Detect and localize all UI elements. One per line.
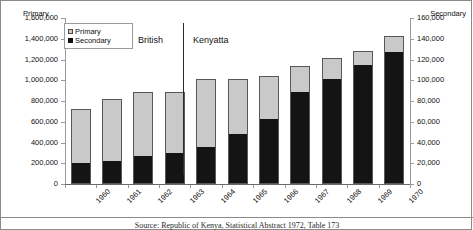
- x-axis-label-1963: 1963: [188, 187, 206, 205]
- legend-item-primary: Primary: [68, 28, 128, 36]
- right-axis-tick-label: 140,000: [417, 34, 444, 43]
- x-axis-label-1967: 1967: [313, 187, 331, 205]
- bar-1962: [133, 92, 153, 184]
- right-axis-tick-label: 20,000: [417, 158, 440, 167]
- x-axis-tick: [410, 185, 411, 188]
- left-axis-tick-label: 1,600,000: [6, 13, 58, 22]
- right-axis-tick: [410, 163, 414, 164]
- x-axis-label-1969: 1969: [376, 187, 394, 205]
- bar-secondary-segment: [134, 156, 152, 183]
- figure-caption: Source: Republic of Kenya, Statistical A…: [1, 221, 473, 230]
- x-axis-tick: [316, 185, 317, 188]
- x-axis-label-1965: 1965: [250, 187, 268, 205]
- x-axis-label-1966: 1966: [282, 187, 300, 205]
- left-axis-tick-label: 600,000: [6, 117, 58, 126]
- right-axis-tick-label: 80,000: [417, 96, 440, 105]
- right-axis-tick: [410, 80, 414, 81]
- bar-secondary-segment: [385, 52, 403, 183]
- bar-secondary-segment: [166, 153, 184, 183]
- legend-item-secondary: Secondary: [68, 37, 128, 45]
- bar-secondary-segment: [323, 79, 341, 183]
- bar-secondary-segment: [291, 92, 309, 183]
- x-axis-label-1964: 1964: [219, 187, 237, 205]
- bar-1963: [165, 92, 185, 184]
- right-axis-tick: [410, 101, 414, 102]
- x-axis-label-1960: 1960: [94, 187, 112, 205]
- right-axis-tick: [410, 60, 414, 61]
- right-axis-tick: [410, 39, 414, 40]
- bar-1970: [384, 36, 404, 184]
- bar-1964: [196, 79, 216, 184]
- bar-secondary-segment: [197, 147, 215, 183]
- left-axis-tick-label: 0: [6, 179, 58, 188]
- legend-label-primary: Primary: [75, 28, 101, 36]
- bar-1961: [102, 99, 122, 184]
- left-axis-tick-label: 200,000: [6, 158, 58, 167]
- x-axis-label-1961: 1961: [125, 187, 143, 205]
- bar-1969: [353, 51, 373, 184]
- x-axis-tick: [253, 185, 254, 188]
- bar-1966: [259, 76, 279, 184]
- x-axis-tick: [159, 185, 160, 188]
- x-axis-tick: [190, 185, 191, 188]
- x-axis-tick: [222, 185, 223, 188]
- bar-secondary-segment: [229, 134, 247, 183]
- bar-1967: [290, 66, 310, 184]
- bar-1965: [228, 79, 248, 184]
- x-axis-tick: [96, 185, 97, 188]
- bar-1960: [71, 109, 91, 184]
- x-axis-tick: [128, 185, 129, 188]
- right-axis-tick: [410, 122, 414, 123]
- bar-secondary-segment: [354, 65, 372, 183]
- bar-secondary-segment: [103, 161, 121, 183]
- era-label-kenyatta: Kenyatta: [193, 35, 229, 45]
- left-axis-tick-label: 1,000,000: [6, 75, 58, 84]
- era-divider-line: [183, 23, 184, 175]
- caption-divider: [1, 217, 473, 218]
- chart-legend: Primary Secondary: [64, 23, 133, 49]
- left-axis-tick-label: 800,000: [6, 96, 58, 105]
- era-label-british: British: [138, 35, 163, 45]
- right-axis-tick-label: 120,000: [417, 55, 444, 64]
- x-axis-label-1968: 1968: [344, 187, 362, 205]
- bar-secondary-segment: [260, 119, 278, 183]
- x-axis-tick: [379, 185, 380, 188]
- x-axis-tick: [65, 185, 66, 188]
- right-axis-tick-label: 160,000: [417, 13, 444, 22]
- bar-1968: [322, 58, 342, 184]
- right-axis-tick-label: 60,000: [417, 117, 440, 126]
- right-axis-tick: [410, 143, 414, 144]
- legend-swatch-secondary-icon: [68, 38, 73, 43]
- left-axis-tick-label: 1,200,000: [6, 55, 58, 64]
- x-axis-labels: 1960196119621963196419651966196719681969…: [65, 185, 410, 221]
- right-axis-tick: [410, 18, 414, 19]
- bar-secondary-segment: [72, 163, 90, 183]
- x-axis-tick: [285, 185, 286, 188]
- x-axis-label-1962: 1962: [156, 187, 174, 205]
- x-axis-tick: [347, 185, 348, 188]
- legend-swatch-primary-icon: [68, 29, 73, 34]
- right-axis-tick-label: 40,000: [417, 138, 440, 147]
- x-axis-label-1970: 1970: [407, 187, 425, 205]
- right-axis-tick-label: 100,000: [417, 75, 444, 84]
- legend-label-secondary: Secondary: [75, 37, 111, 45]
- left-axis-tick-label: 400,000: [6, 138, 58, 147]
- left-axis-tick-label: 1,400,000: [6, 34, 58, 43]
